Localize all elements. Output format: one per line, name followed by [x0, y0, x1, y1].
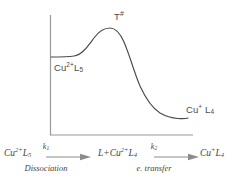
label-reactant-element: Cu [54, 62, 66, 73]
step-2-caption: e. transfer [137, 163, 172, 173]
term-c-pre: Cu [200, 148, 211, 158]
reaction-arrow-2 [154, 153, 200, 161]
rate-1-index: 1 [46, 145, 49, 151]
label-product-count: 4 [210, 108, 214, 115]
label-product-element: Cu [186, 104, 198, 115]
term-b-sub: 4 [134, 151, 137, 158]
reaction-arrow-1 [46, 153, 92, 161]
rate-constant-k1: k1 [43, 142, 49, 151]
equation-term-intermediate: L+Cu2+L4 [98, 148, 137, 158]
rate-constant-k2: k2 [151, 142, 157, 151]
label-reactant-count: 5 [79, 66, 83, 73]
label-transition-state: T# [114, 11, 124, 22]
term-b-pre: L+Cu [98, 148, 121, 158]
label-reactant: Cu2+L5 [54, 62, 83, 73]
term-a-sub: 5 [28, 151, 31, 158]
term-c-sub: 4 [221, 151, 224, 158]
label-ts-marker: # [120, 10, 124, 17]
energy-profile-curve [51, 28, 188, 119]
label-reactant-charge: 2+ [66, 61, 74, 68]
term-a-sup: 2+ [15, 146, 23, 153]
term-a-pre: Cu [4, 148, 15, 158]
reaction-equation: Cu2+L5 k1 Dissociation L+Cu2+L4 k2 e. tr… [0, 142, 240, 190]
equation-term-reactant: Cu2+L5 [4, 148, 31, 158]
step-1-caption: Dissociation [25, 163, 68, 173]
equation-term-product: Cu+L4 [200, 148, 224, 158]
rate-2-index: 2 [154, 145, 157, 151]
label-product: Cu+ L4 [186, 104, 214, 115]
